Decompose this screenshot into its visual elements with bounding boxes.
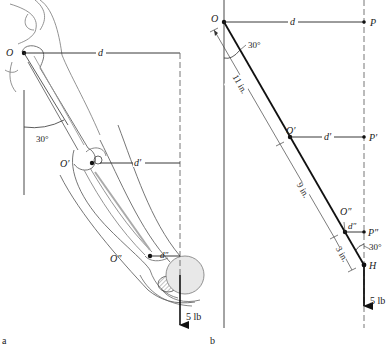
ball-icon (166, 256, 204, 294)
label-p-dprime: P″ (367, 227, 379, 238)
point-p-prime (362, 135, 366, 139)
label-d-prime-b: d′ (324, 131, 332, 142)
panel-b-label: b (210, 335, 215, 346)
upper-arm-axis (24, 53, 68, 125)
point-p-dprime (362, 230, 366, 234)
label-o-prime-b: O′ (286, 125, 296, 136)
torso-sketch (5, 0, 100, 135)
point-p (362, 20, 366, 24)
label-p-prime: P′ (368, 132, 378, 143)
panel-a-label: a (2, 335, 7, 346)
arm-lever-diagram: O d 30° O′ d′ O″ d″ 5 lb a (0, 0, 389, 346)
label-h: H (368, 260, 377, 271)
panel-b: O d P 30° 11 in. O′ d′ P′ (210, 0, 385, 346)
elbow-joint (86, 148, 106, 164)
label-d-dprime-b: d″ (348, 221, 357, 231)
angle-label-top: 30° (248, 40, 261, 50)
arm-lever-line (224, 22, 364, 265)
force-label-b: 5 lb (370, 295, 385, 306)
dimension-3in: 3 in. (332, 237, 356, 272)
label-o-prime: O′ (60, 158, 70, 169)
angle-arc (24, 120, 64, 128)
humerus-sketch (22, 46, 95, 170)
label-d-prime: d′ (134, 157, 142, 168)
label-o: O (6, 47, 13, 58)
dimension-11in: 11 in. (210, 28, 284, 146)
label-o-dprime: O″ (110, 253, 122, 264)
angle-label: 30° (36, 134, 49, 144)
panel-a: O d 30° O′ d′ O″ d″ 5 lb a (2, 0, 204, 346)
pivot-o-prime-dot (90, 161, 94, 165)
label-o-b: O (211, 13, 218, 24)
angle-arc-bottom (356, 244, 364, 250)
label-d-dprime: d″ (160, 250, 169, 260)
dimension-9in: 9 in. (280, 144, 338, 239)
angle-label-bottom: 30° (369, 242, 382, 252)
label-p: P (369, 17, 376, 28)
force-label: 5 lb (186, 311, 201, 322)
label-o-dprime-b: O″ (340, 206, 352, 217)
